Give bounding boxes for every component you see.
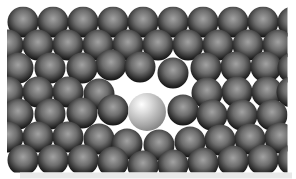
host-atom	[96, 50, 127, 81]
host-atom	[158, 58, 189, 89]
host-atom	[125, 52, 156, 83]
lattice-drawing	[0, 0, 296, 179]
bottom-shadow	[20, 173, 292, 179]
host-atom	[38, 145, 69, 176]
impurity-atom	[128, 93, 166, 131]
host-atom	[98, 95, 129, 126]
host-atom	[218, 146, 249, 177]
host-atom	[8, 145, 39, 176]
host-atom	[168, 95, 199, 126]
host-atom	[68, 145, 99, 176]
crystal-lattice-figure	[0, 0, 296, 179]
host-atom	[248, 145, 279, 176]
